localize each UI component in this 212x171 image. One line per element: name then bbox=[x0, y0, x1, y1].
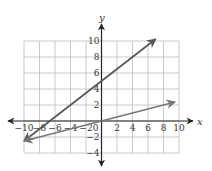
tick-labels: −10−8−6−4−20246810108642−2−4 bbox=[15, 36, 185, 158]
y-tick-label: 10 bbox=[88, 36, 100, 46]
plot-lines bbox=[24, 39, 175, 141]
x-tick-label: 4 bbox=[130, 123, 136, 133]
y-tick-label: 8 bbox=[94, 52, 100, 62]
x-tick-label: 6 bbox=[145, 123, 151, 133]
x-tick-label: 10 bbox=[173, 123, 185, 133]
chart: −10−8−6−4−20246810108642−2−4 x y bbox=[0, 0, 212, 171]
y-tick-label: 6 bbox=[94, 68, 100, 78]
x-tick-label: 8 bbox=[161, 123, 167, 133]
x-tick-label: 2 bbox=[114, 123, 120, 133]
y-axis-label: y bbox=[98, 12, 105, 23]
x-tick-label: −10 bbox=[15, 123, 34, 133]
y-tick-label: −2 bbox=[86, 132, 99, 142]
y-tick-label: 2 bbox=[94, 100, 100, 110]
axes bbox=[8, 24, 193, 166]
x-axis-label: x bbox=[197, 116, 203, 127]
y-tick-label: −4 bbox=[86, 148, 100, 158]
